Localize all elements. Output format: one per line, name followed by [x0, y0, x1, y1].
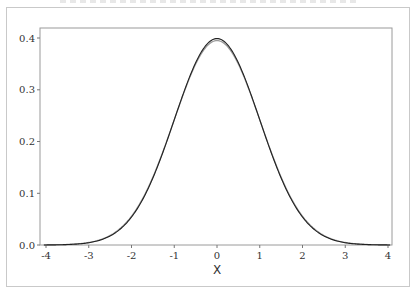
x-tick-label: 2: [299, 250, 305, 261]
density-chart: 0.0 0.1 0.2 0.3 0.4 -4 -3 -2 -1 0 1 2 3 …: [0, 0, 417, 297]
y-tick-label: 0.3: [19, 84, 35, 95]
x-tick-label: 0: [214, 250, 220, 261]
density-curve-dark: [44, 39, 390, 245]
y-tick-label: 0.0: [19, 240, 35, 251]
y-axis: 0.0 0.1 0.2 0.3 0.4: [19, 33, 40, 251]
density-curve-gray: [44, 41, 390, 245]
x-tick-label: -1: [169, 250, 179, 261]
y-tick-label: 0.2: [19, 136, 35, 147]
x-axis: -4 -3 -2 -1 0 1 2 3 4 X: [41, 245, 391, 277]
x-tick-label: -2: [127, 250, 137, 261]
x-tick-label: 1: [257, 250, 263, 261]
x-axis-title: X: [213, 263, 221, 277]
x-tick-label: 4: [385, 250, 391, 261]
x-tick-label: 3: [342, 250, 348, 261]
y-tick-label: 0.1: [19, 188, 35, 199]
y-tick-label: 0.4: [19, 33, 35, 44]
x-tick-label: -4: [41, 250, 51, 261]
plot-area: [40, 28, 392, 245]
x-tick-label: -3: [84, 250, 94, 261]
